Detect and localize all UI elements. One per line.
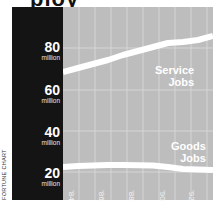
y-tick-value: 40 xyxy=(12,125,63,139)
y-tick-unit: million xyxy=(12,180,63,187)
y-tick-value: 80 xyxy=(12,40,63,54)
goods-jobs-line xyxy=(63,165,213,170)
y-tick-unit: million xyxy=(12,139,63,146)
x-tick-84: '84 xyxy=(67,190,76,200)
x-tick-92: '92 xyxy=(187,190,196,200)
goods-jobs-label: Goods Jobs xyxy=(171,140,206,164)
source-credit: FORTUNE CHART xyxy=(1,149,7,200)
y-tick-unit: million xyxy=(12,54,63,61)
label-line: Goods xyxy=(171,140,206,152)
label-line: Jobs xyxy=(155,76,194,88)
x-tick-86: '86 xyxy=(97,190,106,200)
dark-axis-panel: 80 million 60 million 40 million 20 mill… xyxy=(12,7,63,200)
plot-area: Service Jobs Goods Jobs '84 '86 '88 '90 … xyxy=(63,7,213,200)
y-tick-value: 20 xyxy=(12,166,63,180)
x-tick-90: '90 xyxy=(158,190,167,200)
y-tick-60: 60 million xyxy=(12,83,63,104)
label-line: Service xyxy=(155,64,194,76)
y-tick-80: 80 million xyxy=(12,40,63,61)
chart-svg xyxy=(63,7,213,200)
y-tick-unit: million xyxy=(12,97,63,104)
y-tick-value: 60 xyxy=(12,83,63,97)
y-tick-40: 40 million xyxy=(12,125,63,146)
service-jobs-label: Service Jobs xyxy=(155,64,194,88)
y-tick-20: 20 million xyxy=(12,166,63,187)
x-tick-88: '88 xyxy=(127,190,136,200)
label-line: Jobs xyxy=(171,152,206,164)
